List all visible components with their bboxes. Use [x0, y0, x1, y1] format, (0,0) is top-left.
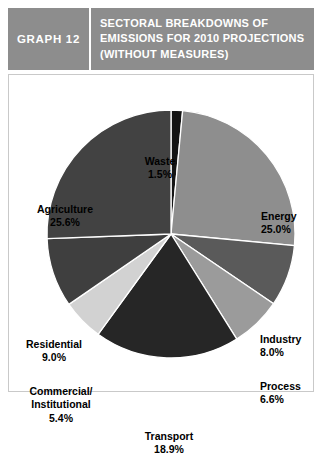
- pie-label-industry-value: 8.0%: [260, 346, 322, 359]
- pie-label-transport-value: 18.9%: [121, 443, 217, 456]
- chart-panel: Waste 1.5% Energy 25.0% Industry 8.0% Pr…: [8, 74, 314, 392]
- pie-label-residential-name: Residential: [26, 338, 82, 350]
- pie-label-agriculture-name: Agriculture: [37, 203, 93, 215]
- pie-label-residential-value: 9.0%: [13, 351, 95, 364]
- pie-label-transport-name: Transport: [145, 430, 193, 442]
- pie-label-commercial-name-line2: Institutional: [17, 398, 105, 411]
- pie-label-waste-value: 1.5%: [117, 168, 203, 181]
- graph-title-cell: SECTORAL BREAKDOWNS OF EMISSIONS FOR 201…: [91, 8, 314, 70]
- pie-slice-group: [47, 110, 295, 358]
- pie-label-residential: Residential 9.0%: [13, 338, 95, 365]
- pie-label-commercial-name-line1: Commercial/: [29, 385, 92, 397]
- pie-label-energy-name: Energy: [261, 210, 297, 222]
- pie-label-process: Process 6.6%: [260, 380, 322, 407]
- pie-label-energy-value: 25.0%: [261, 223, 322, 236]
- pie-label-industry-name: Industry: [260, 333, 301, 345]
- pie-label-process-name: Process: [260, 380, 301, 392]
- pie-label-commercial-institutional: Commercial/ Institutional 5.4%: [17, 385, 105, 425]
- pie-label-agriculture: Agriculture 25.6%: [19, 203, 111, 230]
- pie-label-process-value: 6.6%: [260, 393, 322, 406]
- pie-label-waste: Waste 1.5%: [117, 155, 203, 182]
- pie-label-agriculture-value: 25.6%: [19, 216, 111, 229]
- pie-label-commercial-value: 5.4%: [17, 412, 105, 425]
- graph-number-label: GRAPH 12: [17, 33, 80, 45]
- graph-header: GRAPH 12 SECTORAL BREAKDOWNS OF EMISSION…: [8, 8, 314, 70]
- pie-label-transport: Transport 18.9%: [121, 430, 217, 457]
- graph-number-cell: GRAPH 12: [8, 8, 91, 70]
- pie-label-waste-name: Waste: [145, 155, 176, 167]
- pie-label-industry: Industry 8.0%: [260, 333, 322, 360]
- graph-title: SECTORAL BREAKDOWNS OF EMISSIONS FOR 201…: [100, 16, 308, 63]
- pie-label-energy: Energy 25.0%: [261, 210, 322, 237]
